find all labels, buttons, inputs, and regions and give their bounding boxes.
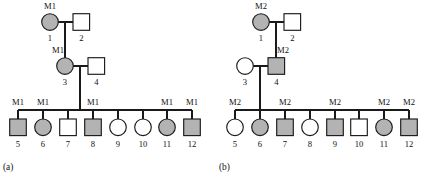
marker-label-b1: M2 [255,1,267,11]
marker-label-b7: M2 [279,97,291,107]
individual-b11-symbol[interactable] [376,119,393,136]
pedigree-panel-b: M2 1 2 M2 3 4 M2 M2 M2 [211,0,422,176]
id-label-a5: 5 [16,139,20,149]
id-label-a11: 11 [163,139,171,149]
marker-label-a3: M1 [52,45,64,55]
individual-b6-symbol[interactable] [252,119,269,136]
id-label-a7: 7 [66,139,71,149]
panel-b-canvas: M2 1 2 M2 3 4 M2 M2 M2 [211,0,422,176]
id-label-a9: 9 [116,139,120,149]
individual-a8-symbol[interactable] [85,119,102,136]
panel-caption-a: (a) [3,162,13,173]
marker-label-b9: M2 [329,97,341,107]
id-label-b4: 4 [274,77,279,87]
id-label-a8: 8 [91,139,95,149]
marker-label-a12: M1 [186,97,198,107]
individual-b8-symbol[interactable] [302,119,319,136]
id-label-b12: 12 [405,139,414,149]
individual-a10-symbol[interactable] [135,119,152,136]
marker-label-b4: M2 [277,45,289,55]
marker-label-a11: M1 [161,97,173,107]
individual-b10-symbol[interactable] [351,119,368,136]
id-label-b6: 6 [258,139,263,149]
pedigree-panel-a: M1 1 2 M1 3 4 M1 M1 M1 [0,0,211,176]
id-label-b7: 7 [283,139,288,149]
id-label-b3: 3 [243,77,247,87]
id-label-b1: 1 [259,33,263,43]
id-label-b10: 10 [355,139,364,149]
id-label-a10: 10 [139,139,148,149]
individual-b2-symbol[interactable] [284,14,301,31]
id-label-b8: 8 [308,139,312,149]
id-label-a6: 6 [41,139,46,149]
id-label-b2: 2 [290,33,294,43]
individual-a11-symbol[interactable] [159,119,176,136]
individual-b3-symbol[interactable] [237,58,254,75]
individual-b4-symbol[interactable] [268,58,285,75]
individual-a9-symbol[interactable] [110,119,127,136]
id-label-a4: 4 [94,77,99,87]
individual-a4-symbol[interactable] [88,58,105,75]
panel-caption-b: (b) [219,162,230,173]
individual-a2-symbol[interactable] [73,14,90,31]
marker-label-b12: M2 [403,97,415,107]
individual-a12-symbol[interactable] [184,119,201,136]
id-label-a3: 3 [63,77,67,87]
marker-label-a6: M1 [37,97,49,107]
panel-a-canvas: M1 1 2 M1 3 4 M1 M1 M1 [0,0,211,176]
individual-b12-symbol[interactable] [401,119,418,136]
pedigree-figure: M1 1 2 M1 3 4 M1 M1 M1 [0,0,422,176]
id-label-b5: 5 [233,139,237,149]
marker-label-a8: M1 [87,97,99,107]
individual-b1-symbol[interactable] [253,14,270,31]
id-label-b11: 11 [380,139,388,149]
individual-b9-symbol[interactable] [327,119,344,136]
marker-label-a1: M1 [44,1,56,11]
marker-label-b11: M2 [378,97,390,107]
individual-a6-symbol[interactable] [35,119,52,136]
individual-b5-symbol[interactable] [227,119,244,136]
marker-label-a5: M1 [12,97,24,107]
individual-a7-symbol[interactable] [60,119,77,136]
id-label-a2: 2 [79,33,83,43]
marker-label-b5: M2 [229,97,241,107]
id-label-a1: 1 [48,33,52,43]
id-label-b9: 9 [333,139,337,149]
individual-a3-symbol[interactable] [57,58,74,75]
individual-a1-symbol[interactable] [42,14,59,31]
individual-b7-symbol[interactable] [277,119,294,136]
id-label-a12: 12 [188,139,197,149]
individual-a5-symbol[interactable] [10,119,27,136]
